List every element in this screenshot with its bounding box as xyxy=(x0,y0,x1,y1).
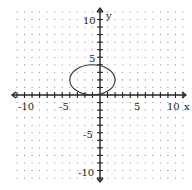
x-tick-label: 10 xyxy=(167,101,180,112)
y-axis-label: y xyxy=(105,10,112,21)
x-tick-label: 5 xyxy=(134,101,140,112)
x-tick-label: -5 xyxy=(59,101,69,112)
y-tick-label: -5 xyxy=(83,129,93,140)
y-tick-label: 5 xyxy=(89,53,95,64)
x-tick-label: -10 xyxy=(18,101,34,112)
y-tick-label: 10 xyxy=(83,15,96,26)
coordinate-plane: x y -10 -5 5 10 10 5 -5 -10 xyxy=(0,0,192,190)
y-tick-label: -10 xyxy=(78,167,94,178)
x-axis-label: x xyxy=(184,101,190,112)
